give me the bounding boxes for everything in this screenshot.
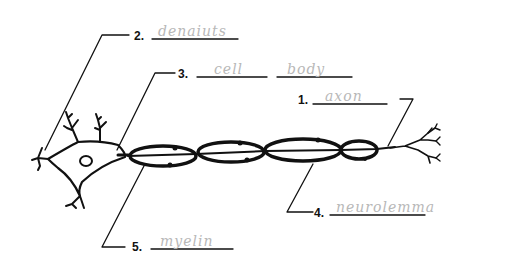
label-2: 2. denaiuts bbox=[134, 23, 238, 43]
svg-text:3.: 3. bbox=[178, 67, 188, 81]
nucleus bbox=[80, 156, 92, 166]
leader-line-2 bbox=[45, 35, 129, 150]
label-5: 5. myelin bbox=[132, 233, 233, 254]
leader-line-5 bbox=[102, 164, 145, 247]
answer-3b[interactable]: body bbox=[287, 61, 325, 77]
answer-5[interactable]: myelin bbox=[160, 233, 213, 249]
svg-text:1.: 1. bbox=[298, 93, 308, 107]
svg-text:5.: 5. bbox=[132, 240, 142, 254]
leader-line-4 bbox=[287, 164, 313, 212]
answer-3a[interactable]: cell bbox=[214, 61, 243, 77]
answer-2[interactable]: denaiuts bbox=[158, 23, 227, 39]
leader-line-1 bbox=[388, 99, 413, 146]
label-4: 4. neurolemma bbox=[314, 199, 435, 220]
cell-body bbox=[48, 141, 125, 196]
leader-line-3 bbox=[117, 73, 175, 150]
answer-1[interactable]: axon bbox=[325, 88, 363, 104]
dendrites bbox=[32, 112, 106, 208]
answer-4[interactable]: neurolemma bbox=[336, 199, 435, 215]
label-1: 1. axon bbox=[298, 88, 387, 107]
label-3: 3. cell body bbox=[178, 61, 352, 81]
svg-text:4.: 4. bbox=[314, 206, 324, 220]
axon-terminals bbox=[390, 124, 440, 163]
svg-text:2.: 2. bbox=[134, 29, 144, 43]
neuron-diagram: 2. denaiuts 3. cell body 1. axon 4. neur… bbox=[0, 0, 514, 275]
